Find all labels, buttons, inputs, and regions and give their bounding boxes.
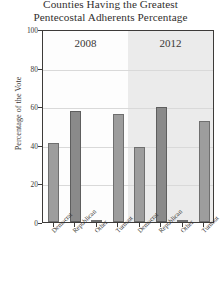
x-tick-label-2012-other: Other	[179, 218, 195, 234]
x-tick-label-2012-democrat: Democrat	[136, 211, 159, 234]
chart-figure: Counties Having the Greatest Pentecostal…	[0, 0, 221, 293]
x-axis-tick-labels: DemocratRepublicanOtherTurnoutDemocratRe…	[0, 0, 221, 293]
x-tick-label-2008-democrat: Democrat	[50, 211, 73, 234]
x-tick-label-2008-turnout: Turnout	[114, 214, 134, 234]
x-tick-label-2012-turnout: Turnout	[200, 214, 220, 234]
x-tick-label-2008-other: Other	[93, 218, 109, 234]
